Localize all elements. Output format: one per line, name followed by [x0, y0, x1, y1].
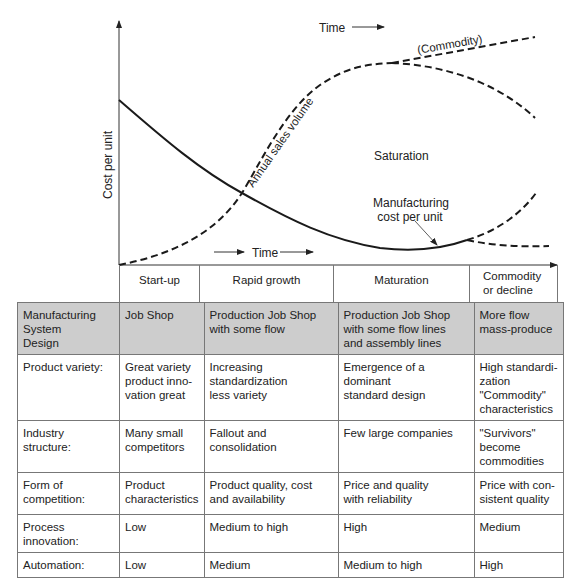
- cell-line: less variety: [210, 388, 333, 402]
- cell-line: High standardi-: [480, 360, 558, 374]
- label-line: Automation:: [23, 558, 114, 572]
- cell-line: mass-produce: [480, 322, 558, 336]
- mfg-cost-label: Manufacturing cost per unit: [373, 196, 447, 224]
- label-line: Process innovation:: [23, 520, 114, 548]
- annual-sales-volume-label: Annual sales volume: [245, 95, 316, 189]
- cell-line: vation great: [125, 388, 199, 402]
- cell-line: and availability: [210, 492, 333, 506]
- phase-rapid-growth: Rapid growth: [199, 265, 333, 302]
- table-cell: High: [338, 515, 474, 553]
- table-cell: Product characteristics: [120, 473, 205, 515]
- cell-line: Emergence of a dominant: [344, 360, 469, 388]
- annual-sales-volume-curve: [119, 63, 392, 265]
- cell-line: Increasing standardization: [210, 360, 333, 388]
- label-line: Design: [23, 336, 114, 350]
- cell-line: characteristics: [480, 402, 558, 416]
- cell-line: Great variety: [125, 360, 199, 374]
- cell-line: zation: [480, 374, 558, 388]
- cost-branch-rising: [467, 193, 536, 240]
- table-cell: Low: [120, 553, 205, 578]
- cell-line: sistent quality: [480, 492, 558, 506]
- cell-line: Price and quality: [344, 478, 469, 492]
- cell-line: commodities: [480, 454, 558, 468]
- phase-row: Start-up Rapid growth Maturation Commodi…: [119, 265, 558, 302]
- phase-commodity-line1: Commodity: [483, 269, 557, 283]
- cell-line: characteristics: [125, 492, 199, 506]
- cell-line: standard design: [344, 388, 469, 402]
- sales-branch-decline: [392, 63, 535, 118]
- cell-line: High: [480, 558, 558, 572]
- cell-line: Medium to high: [210, 520, 333, 534]
- cell-line: Few large companies: [344, 426, 469, 440]
- table-cell: Medium: [204, 553, 338, 578]
- table-cell: "Survivors" become commodities: [474, 421, 563, 473]
- table-cell: Low: [120, 515, 205, 553]
- cell-line: Low: [125, 520, 199, 534]
- label-line: Form of: [23, 478, 114, 492]
- time-bottom-label: Time: [252, 246, 278, 260]
- label-line: competition:: [23, 492, 114, 506]
- table-cell: Fallout and consolidation: [204, 421, 338, 473]
- cell-line: product inno-: [125, 374, 199, 388]
- table-cell: Price with con- sistent quality: [474, 473, 563, 515]
- cell-line: Many small: [125, 426, 199, 440]
- phase-startup: Start-up: [119, 265, 199, 302]
- cell-line: and assembly lines: [344, 336, 469, 350]
- table-cell: Emergence of a dominant standard design: [338, 355, 474, 421]
- table-cell: Many small competitors: [120, 421, 205, 473]
- row-label: Form of competition:: [18, 473, 120, 515]
- lifecycle-table: Manufacturing System Design Job Shop Pro…: [17, 302, 564, 578]
- table-cell: Medium to high: [204, 515, 338, 553]
- cell-line: Job Shop: [125, 308, 199, 322]
- table-cell: Production Job Shop with some flow: [204, 303, 338, 355]
- table-cell: More flow mass-produce: [474, 303, 563, 355]
- phase-maturation: Maturation: [333, 265, 469, 302]
- table-cell: Product quality, cost and availability: [204, 473, 338, 515]
- product-lifecycle-chart: (Commodity) Annual sales volume: [0, 0, 570, 300]
- cell-line: Production Job Shop: [344, 308, 469, 322]
- cell-line: "Commodity": [480, 388, 558, 402]
- cell-line: competitors: [125, 440, 199, 454]
- cell-line: Price with con-: [480, 478, 558, 492]
- cell-line: Production Job Shop: [210, 308, 333, 322]
- phase-commodity-line2: or decline: [483, 283, 557, 297]
- cell-line: Product quality, cost: [210, 478, 333, 492]
- row-label: Industry structure:: [18, 421, 120, 473]
- table-cell: Job Shop: [120, 303, 205, 355]
- table-row-automation: Automation: Low Medium Medium to high Hi…: [18, 553, 564, 578]
- table-cell: Medium: [474, 515, 563, 553]
- table-cell: High standardi- zation "Commodity" chara…: [474, 355, 563, 421]
- phase-commodity-decline: Commodity or decline: [469, 265, 558, 302]
- mfg-cost-pointer: [415, 221, 437, 245]
- table-cell: Few large companies: [338, 421, 474, 473]
- table-row-industry-structure: Industry structure: Many small competito…: [18, 421, 564, 473]
- table-row-process-innovation: Process innovation: Low Medium to high H…: [18, 515, 564, 553]
- cost-branch-flat: [467, 240, 549, 246]
- cell-line: with some flow: [210, 322, 333, 336]
- cell-line: Product: [125, 478, 199, 492]
- table-row-product-variety: Product variety: Great variety product i…: [18, 355, 564, 421]
- cell-line: Medium to high: [344, 558, 469, 572]
- label-line: Product variety:: [23, 360, 114, 374]
- table-row-system-design: Manufacturing System Design Job Shop Pro…: [18, 303, 564, 355]
- table-cell: Production Job Shop with some flow lines…: [338, 303, 474, 355]
- y-axis-label: Cost per unit: [101, 115, 115, 215]
- mfg-cost-label-line1: Manufacturing: [373, 196, 447, 210]
- cell-line: with some flow lines: [344, 322, 469, 336]
- row-label: Manufacturing System Design: [18, 303, 120, 355]
- cell-line: Medium: [210, 558, 333, 572]
- table-row-form-of-competition: Form of competition: Product characteris…: [18, 473, 564, 515]
- cell-line: Medium: [480, 520, 558, 534]
- table-cell: Increasing standardization less variety: [204, 355, 338, 421]
- row-label: Process innovation:: [18, 515, 120, 553]
- label-line: System: [23, 322, 114, 336]
- cell-line: High: [344, 520, 469, 534]
- mfg-cost-label-line2: cost per unit: [373, 210, 447, 224]
- saturation-label: Saturation: [374, 149, 429, 163]
- cell-line: Fallout and consolidation: [210, 426, 333, 454]
- row-label: Automation:: [18, 553, 120, 578]
- cell-line: Low: [125, 558, 199, 572]
- table-cell: Price and quality with reliability: [338, 473, 474, 515]
- cell-line: "Survivors": [480, 426, 558, 440]
- cell-line: More flow: [480, 308, 558, 322]
